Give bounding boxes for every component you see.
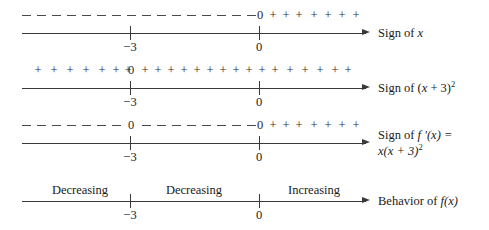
- number-line: [22, 201, 366, 202]
- minus-dash: [232, 125, 241, 126]
- plus-sign: +: [308, 116, 320, 134]
- plus-sign: +: [191, 61, 203, 79]
- arrow-head-icon: [362, 139, 370, 145]
- caption-text-post: (x): [444, 194, 458, 208]
- sign-chart-row-behavior-of-f: Decreasing Decreasing Increasing −3 0 Be…: [0, 168, 489, 223]
- row-caption-sign-of-x-plus-3-squared: Sign of (x + 3)2: [378, 80, 455, 96]
- minus-dash: [97, 15, 106, 16]
- caption-exponent: 2: [418, 142, 422, 152]
- plus-sign: +: [342, 61, 354, 79]
- minus-dash: [97, 125, 106, 126]
- plus-sign: +: [110, 61, 122, 79]
- plus-sign: +: [284, 61, 296, 79]
- arrow-head-icon: [362, 84, 370, 90]
- caption-text: Sign of: [378, 128, 418, 142]
- minus-dash: [142, 125, 151, 126]
- caption-variable: x: [418, 26, 424, 40]
- tick-label-minus-3: −3: [110, 208, 150, 222]
- minus-dash: [172, 15, 181, 16]
- number-line: [22, 33, 366, 34]
- caption-exponent: 2: [451, 79, 455, 89]
- minus-dash: [22, 15, 31, 16]
- tick-mark-zero: [259, 136, 260, 150]
- minus-dash: [232, 15, 241, 16]
- tick-mark-zero: [259, 81, 260, 95]
- caption-text-post: ′(x) =: [421, 128, 452, 142]
- minus-dash: [37, 15, 46, 16]
- plus-sign: +: [267, 116, 279, 134]
- caption-expression: (x + 3): [384, 144, 419, 158]
- sign-chart-row-sign-of-f-prime: 0 0 + + + + + + + −3 0 Sign o: [0, 110, 489, 165]
- row-caption-behavior-of-f: Behavior of f(x): [378, 193, 458, 209]
- caption-text: Sign of: [378, 26, 418, 40]
- minus-dash: [52, 15, 61, 16]
- sign-chart-row-sign-of-x-plus-3-squared: + + + + + + + 0 + + + + + + + + + + + + …: [0, 55, 489, 110]
- plus-sign: +: [308, 6, 320, 24]
- tick-label-zero: 0: [239, 150, 279, 164]
- minus-dash: [187, 15, 196, 16]
- symbol-strip-row2: + + + + + + + 0 + + + + + + + + + + + + …: [22, 61, 366, 81]
- number-line: [22, 88, 366, 89]
- minus-dash: [202, 125, 211, 126]
- tick-mark-minus-3: [130, 136, 131, 150]
- plus-sign: +: [336, 6, 348, 24]
- region-label-strip-row4: Decreasing Decreasing Increasing: [22, 174, 366, 194]
- tick-label-zero: 0: [239, 208, 279, 222]
- plus-sign: +: [256, 61, 268, 79]
- plus-sign: +: [314, 61, 326, 79]
- plus-sign: +: [243, 61, 255, 79]
- minus-dash: [157, 15, 166, 16]
- plus-sign: +: [230, 61, 242, 79]
- plus-sign: +: [293, 6, 305, 24]
- caption-text: Behavior of: [378, 194, 440, 208]
- number-line: [22, 143, 366, 144]
- plus-sign: +: [267, 6, 279, 24]
- minus-dash: [142, 15, 151, 16]
- plus-sign: +: [217, 61, 229, 79]
- tick-mark-zero: [259, 26, 260, 40]
- minus-dash: [22, 125, 31, 126]
- minus-dash: [187, 125, 196, 126]
- plus-sign: +: [336, 116, 348, 134]
- minus-dash: [112, 125, 121, 126]
- minus-dash: [82, 15, 91, 16]
- tick-mark-minus-3: [130, 26, 131, 40]
- zero-marker: 0: [124, 116, 138, 134]
- minus-dash: [202, 15, 211, 16]
- arrow-head-icon: [362, 29, 370, 35]
- plus-sign: +: [322, 6, 334, 24]
- sign-chart-figure: 0 + + + + + + + −3 0 Sign of x + + + + +…: [0, 0, 489, 230]
- tick-label-minus-3: −3: [110, 95, 150, 109]
- minus-dash: [172, 125, 181, 126]
- tick-label-minus-3: −3: [110, 150, 150, 164]
- plus-sign: +: [269, 61, 281, 79]
- minus-dash: [82, 125, 91, 126]
- plus-sign: +: [322, 116, 334, 134]
- plus-sign: +: [64, 61, 76, 79]
- minus-dash: [157, 125, 166, 126]
- plus-sign: +: [280, 116, 292, 134]
- zero-marker: 0: [253, 116, 267, 134]
- plus-sign: +: [204, 61, 216, 79]
- tick-mark-minus-3: [130, 194, 131, 208]
- plus-sign: +: [350, 6, 362, 24]
- row-caption-sign-of-x: Sign of x: [378, 25, 423, 41]
- minus-dash: [37, 125, 46, 126]
- caption-text-post: + 3): [427, 81, 451, 95]
- region-label-left: Decreasing: [30, 182, 130, 198]
- caption-second-line: x(x + 3)2: [378, 143, 452, 159]
- plus-sign: +: [280, 6, 292, 24]
- plus-sign: +: [299, 61, 311, 79]
- caption-text: Sign of (: [378, 81, 422, 95]
- minus-dash: [112, 15, 121, 16]
- minus-dash: [67, 15, 76, 16]
- zero-marker: 0: [253, 6, 267, 24]
- plus-sign: +: [293, 116, 305, 134]
- plus-sign: +: [48, 61, 60, 79]
- tick-label-minus-3: −3: [110, 40, 150, 54]
- arrow-head-icon: [362, 197, 370, 203]
- minus-dash: [217, 15, 226, 16]
- minus-dash: [52, 125, 61, 126]
- plus-sign: +: [96, 61, 108, 79]
- symbol-strip-row1: 0 + + + + + + +: [22, 6, 366, 26]
